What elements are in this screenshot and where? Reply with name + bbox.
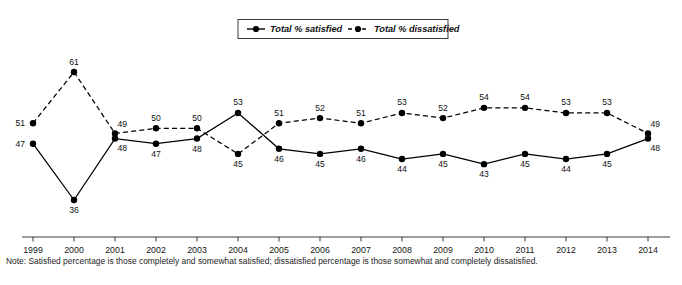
data-point-label: 47 — [15, 139, 25, 149]
series-marker-dissatisfied — [317, 115, 323, 121]
x-axis-tick-label: 1999 — [23, 245, 43, 255]
data-point-label: 52 — [315, 103, 325, 113]
data-point-label: 48 — [651, 143, 661, 153]
series-marker-satisfied — [563, 156, 569, 162]
data-point-label: 46 — [274, 154, 284, 164]
data-point-label: 45 — [315, 159, 325, 169]
series-marker-dissatisfied — [440, 115, 446, 121]
x-axis-tick-label: 2002 — [146, 245, 166, 255]
data-point-label: 61 — [69, 57, 79, 67]
chart-note: Note: Satisfied percentage is those comp… — [6, 256, 538, 267]
series-marker-dissatisfied — [604, 110, 610, 116]
data-point-label: 49 — [118, 119, 128, 129]
data-point-label: 43 — [479, 169, 489, 179]
series-marker-satisfied — [153, 140, 159, 146]
x-axis-tick-label: 2007 — [351, 245, 371, 255]
chart-container: Total % satisfied Total % dissatisfied 1… — [0, 0, 682, 285]
x-axis-tick-label: 2008 — [392, 245, 412, 255]
data-point-label: 50 — [192, 113, 202, 123]
line-chart-svg: Total % satisfied Total % dissatisfied 1… — [0, 0, 682, 285]
series-marker-dissatisfied — [563, 110, 569, 116]
data-point-label: 53 — [397, 97, 407, 107]
data-point-label: 45 — [233, 159, 243, 169]
legend-marker-dissatisfied — [355, 26, 361, 32]
x-axis-tick-label: 2000 — [64, 245, 84, 255]
series-marker-dissatisfied — [235, 151, 241, 157]
series-marker-dissatisfied — [522, 105, 528, 111]
x-axis-tick-label: 2003 — [187, 245, 207, 255]
chart-data-labels: 4736484748534645464445434544454851614950… — [15, 57, 660, 216]
data-point-label: 48 — [192, 144, 202, 154]
data-point-label: 51 — [15, 118, 25, 128]
series-marker-dissatisfied — [112, 130, 118, 136]
data-point-label: 44 — [561, 164, 571, 174]
data-point-label: 52 — [438, 103, 448, 113]
series-marker-dissatisfied — [153, 125, 159, 131]
series-marker-dissatisfied — [194, 125, 200, 131]
legend-label-satisfied: Total % satisfied — [270, 24, 343, 34]
x-axis-tick-label: 2001 — [105, 245, 125, 255]
series-marker-satisfied — [604, 151, 610, 157]
data-point-label: 53 — [233, 97, 243, 107]
x-axis-tick-label: 2013 — [597, 245, 617, 255]
series-marker-satisfied — [522, 151, 528, 157]
data-point-label: 53 — [602, 97, 612, 107]
series-marker-dissatisfied — [276, 120, 282, 126]
series-marker-satisfied — [399, 156, 405, 162]
data-point-label: 54 — [479, 92, 489, 102]
series-marker-satisfied — [71, 197, 77, 203]
x-axis-tick-label: 2012 — [556, 245, 576, 255]
data-point-label: 36 — [69, 205, 79, 215]
series-marker-satisfied — [481, 161, 487, 167]
series-marker-satisfied — [235, 110, 241, 116]
data-point-label: 45 — [602, 159, 612, 169]
data-point-label: 48 — [118, 143, 128, 153]
x-axis-tick-label: 2014 — [638, 245, 658, 255]
series-marker-dissatisfied — [71, 69, 77, 75]
data-point-label: 45 — [438, 159, 448, 169]
data-point-label: 45 — [520, 159, 530, 169]
legend-label-dissatisfied: Total % dissatisfied — [374, 24, 460, 34]
data-point-label: 51 — [356, 108, 366, 118]
data-point-label: 50 — [151, 113, 161, 123]
chart-legend: Total % satisfied Total % dissatisfied — [238, 20, 460, 39]
x-axis-tick-label: 2004 — [228, 245, 248, 255]
data-point-label: 53 — [561, 97, 571, 107]
series-marker-dissatisfied — [30, 120, 36, 126]
series-marker-dissatisfied — [481, 105, 487, 111]
series-marker-dissatisfied — [358, 120, 364, 126]
series-marker-dissatisfied — [645, 130, 651, 136]
data-point-label: 51 — [274, 108, 284, 118]
series-marker-dissatisfied — [399, 110, 405, 116]
data-point-label: 54 — [520, 92, 530, 102]
series-marker-satisfied — [317, 151, 323, 157]
x-axis-tick-label: 2009 — [433, 245, 453, 255]
series-marker-satisfied — [30, 140, 36, 146]
data-point-label: 46 — [356, 154, 366, 164]
series-marker-satisfied — [440, 151, 446, 157]
x-axis-tick-label: 2010 — [474, 245, 494, 255]
x-axis-tick-label: 2006 — [310, 245, 330, 255]
chart-x-axis: 1999200020012002200320042005200620072008… — [22, 237, 670, 255]
legend-marker-satisfied — [253, 26, 259, 32]
x-axis-tick-label: 2005 — [269, 245, 289, 255]
x-axis-tick-label: 2011 — [516, 245, 535, 255]
series-marker-satisfied — [194, 135, 200, 141]
data-point-label: 49 — [651, 119, 661, 129]
data-point-label: 47 — [151, 149, 161, 159]
chart-series-layer — [30, 69, 651, 203]
data-point-label: 44 — [397, 164, 407, 174]
series-marker-satisfied — [358, 146, 364, 152]
series-marker-satisfied — [276, 146, 282, 152]
